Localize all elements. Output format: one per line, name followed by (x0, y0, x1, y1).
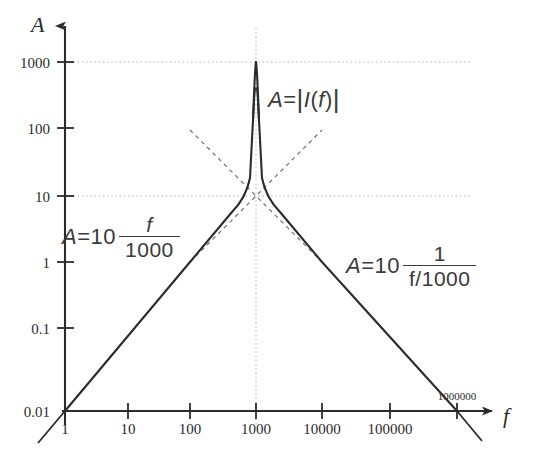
x-tick-label-1000000: 1000000 (438, 390, 477, 402)
peak-eq-bar-left: | (297, 84, 304, 115)
peak-eq-bar-right: | (333, 84, 340, 115)
y-tick-label-100: 100 (28, 121, 51, 137)
x-tick-label-100: 100 (179, 421, 202, 437)
x-tick-label-1000: 1000 (241, 421, 271, 437)
right-eq-fraction: 1 f/1000 (403, 243, 476, 289)
x-tick-label-10000: 10000 (303, 421, 341, 437)
right-eq-numerator: 1 (428, 243, 452, 265)
curve-tail-right (457, 411, 482, 441)
x-tick-label-100000: 100000 (368, 421, 413, 437)
y-tick-label-1: 1 (43, 255, 51, 271)
y-tick-label-1000: 1000 (20, 55, 50, 71)
resonance-log-log-chart: A f 1000 100 10 1 0.1 0.01 1 10 100 1000… (0, 0, 533, 449)
left-eq-lhs: A (62, 224, 77, 250)
annotation-right-asymptote-equation: A = 10 1 f/1000 (346, 243, 476, 289)
peak-eq-paren-open: ( (310, 87, 318, 113)
peak-eq-operator: = (283, 87, 296, 113)
left-eq-fraction: f 1000 (119, 214, 180, 260)
y-tick-label-0.01: 0.01 (24, 404, 50, 420)
y-tick-label-0.1: 0.1 (31, 321, 50, 337)
y-axis-label: A (29, 12, 45, 37)
left-eq-operator: = (77, 224, 90, 250)
peak-eq-argument: f (318, 87, 325, 113)
left-eq-coefficient: 10 (91, 224, 116, 250)
peak-eq-function: I (304, 87, 311, 113)
right-eq-coefficient: 10 (375, 253, 400, 279)
right-eq-operator: = (361, 253, 374, 279)
peak-eq-lhs: A (268, 87, 283, 113)
annotation-peak-equation: A = | I ( f ) | (268, 84, 340, 115)
right-eq-denominator: f/1000 (403, 265, 476, 289)
annotation-left-asymptote-equation: A = 10 f 1000 (62, 214, 180, 260)
x-axis-label: f (503, 403, 512, 428)
x-tick-label-10: 10 (121, 421, 136, 437)
peak-eq-paren-close: ) (325, 87, 333, 113)
right-eq-lhs: A (346, 253, 361, 279)
left-eq-numerator: f (140, 214, 158, 236)
y-tick-label-10: 10 (35, 189, 50, 205)
x-tick-label-1: 1 (61, 421, 69, 437)
left-eq-denominator: 1000 (119, 236, 180, 260)
